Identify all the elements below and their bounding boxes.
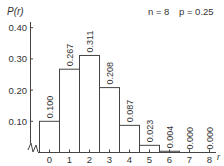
bar-value-label: 0.311 xyxy=(85,31,95,53)
x-tick-label: 3 xyxy=(107,154,112,165)
p-annotation: p = 0.25 xyxy=(179,6,214,17)
n-annotation: n = 8 xyxy=(148,6,169,17)
bar xyxy=(100,88,120,153)
bar xyxy=(80,55,100,152)
y-tick-label: 0.30 xyxy=(9,53,28,64)
bar-value-label: 0.208 xyxy=(105,62,115,85)
x-tick-label: 1 xyxy=(67,154,72,165)
axis-break-icon xyxy=(28,143,38,152)
x-tick-label: 8 xyxy=(207,154,212,165)
y-ticks: 0.100.200.300.40 xyxy=(9,22,34,127)
x-tick-label: 0 xyxy=(47,154,52,165)
bar xyxy=(120,125,140,152)
bar-value-label: 0.000 xyxy=(185,127,195,150)
x-tick-label: 5 xyxy=(147,154,152,165)
y-tick-label: 0.10 xyxy=(9,116,28,127)
y-tick-label: 0.20 xyxy=(9,85,28,96)
y-tick-label: 0.40 xyxy=(9,22,28,33)
bar-value-label: 0.000 xyxy=(205,127,215,150)
bars: 0.1000.2670.3110.2080.0870.0230.0040.000… xyxy=(40,31,216,153)
bar-value-label: 0.023 xyxy=(145,120,155,143)
x-tick-label: 7 xyxy=(187,154,192,165)
x-tick-label: 2 xyxy=(87,154,92,165)
bar-value-label: 0.087 xyxy=(125,100,135,123)
bar-value-label: 0.267 xyxy=(65,44,75,67)
bar-value-label: 0.100 xyxy=(45,96,55,119)
bar xyxy=(40,121,60,152)
bar-value-label: 0.004 xyxy=(165,126,175,149)
x-tick-label: 6 xyxy=(167,154,172,165)
binomial-bar-chart: 0.100.200.300.40 0.1000.2670.3110.2080.0… xyxy=(0,0,224,166)
x-axis-label: r xyxy=(217,152,221,162)
x-tick-label: 4 xyxy=(127,154,132,165)
y-axis-label: P(r) xyxy=(7,6,24,17)
bar xyxy=(60,69,80,152)
